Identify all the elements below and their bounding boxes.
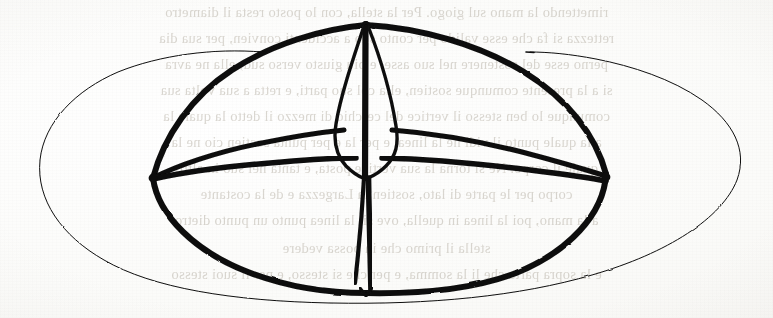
right-node	[602, 173, 611, 182]
rim-tip-left	[258, 52, 266, 53]
hand-drawn-diagram	[0, 0, 773, 318]
left-node	[149, 174, 158, 183]
rim-tip-right	[526, 52, 534, 53]
scanned-page: rimettendo la mano sul giogo. Per la ste…	[0, 0, 773, 318]
diagram-svg	[0, 0, 773, 318]
